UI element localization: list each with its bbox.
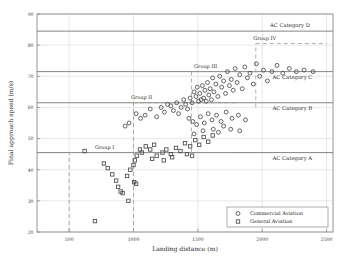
data-point-2: [155, 154, 158, 157]
data-point-1: [220, 85, 224, 89]
data-point-1: [206, 81, 210, 85]
group-label: Group II: [131, 94, 152, 101]
data-point-1: [198, 115, 202, 119]
data-point-2: [144, 145, 147, 148]
data-point-1: [222, 79, 226, 83]
data-point-2: [190, 154, 193, 157]
data-point-1: [123, 124, 127, 128]
y-axis-label: Final approach speed (m/s): [7, 81, 15, 165]
data-point-2: [106, 166, 109, 169]
data-point-2: [149, 148, 152, 151]
data-point-1: [219, 119, 223, 123]
data-point-1: [229, 77, 233, 81]
data-point-1: [210, 118, 214, 122]
data-point-1: [192, 132, 196, 136]
data-point-1: [254, 62, 258, 66]
data-point-2: [165, 148, 168, 151]
x-tick-label: 1000: [128, 237, 140, 242]
data-point-1: [209, 98, 213, 102]
data-point-1: [206, 112, 210, 116]
data-point-1: [240, 87, 244, 91]
data-point-1: [188, 96, 192, 100]
data-point-1: [143, 113, 147, 117]
data-point-1: [127, 121, 131, 125]
data-point-1: [194, 95, 198, 99]
data-point-1: [216, 95, 220, 99]
x-tick-label: 1500: [192, 237, 204, 242]
data-point-1: [203, 88, 207, 92]
data-point-2: [135, 154, 138, 157]
data-point-1: [192, 90, 196, 94]
data-point-1: [212, 90, 216, 94]
group-label: Group I: [95, 144, 114, 151]
data-point-2: [125, 174, 128, 177]
data-point-1: [198, 91, 202, 95]
y-tick-label: 20: [28, 230, 34, 235]
data-point-1: [275, 63, 279, 67]
data-point-2: [194, 138, 197, 141]
data-point-1: [243, 65, 247, 69]
category-label: AC Category A: [272, 155, 313, 162]
data-point-1: [195, 85, 199, 89]
y-tick-label: 60: [28, 105, 34, 110]
group-label: Group IV: [253, 35, 276, 42]
y-tick-label: 70: [28, 74, 34, 79]
y-tick-label: 80: [28, 43, 34, 48]
data-point-1: [231, 88, 235, 92]
category-label: AC Category C: [272, 74, 313, 81]
data-point-1: [211, 127, 215, 131]
data-point-1: [201, 129, 205, 133]
data-point-1: [217, 130, 221, 134]
data-point-2: [111, 173, 114, 176]
data-point-2: [152, 143, 155, 146]
data-point-2: [206, 140, 209, 143]
data-point-1: [162, 110, 166, 114]
data-point-1: [222, 124, 226, 128]
data-point-2: [114, 179, 117, 182]
data-point-1: [134, 112, 138, 116]
x-axis-label: Landing distance (m): [152, 245, 218, 253]
data-point-1: [238, 129, 242, 133]
y-tick-label: 50: [28, 136, 34, 141]
y-tick-label: 30: [28, 199, 34, 204]
data-point-2: [93, 219, 96, 222]
data-point-1: [224, 110, 228, 114]
data-point-2: [116, 185, 119, 188]
data-point-2: [183, 142, 186, 145]
data-point-1: [251, 82, 255, 86]
y-tick-label: 90: [28, 12, 34, 17]
data-point-1: [208, 87, 212, 91]
data-point-1: [233, 67, 237, 71]
data-point-1: [229, 127, 233, 131]
x-tick-label: 500: [65, 237, 74, 242]
data-point-1: [200, 84, 204, 88]
data-point-1: [235, 81, 239, 85]
plot-frame: [37, 14, 333, 232]
data-point-1: [171, 109, 175, 113]
data-point-1: [177, 112, 181, 116]
data-point-2: [150, 157, 153, 160]
data-point-1: [187, 116, 191, 120]
category-label: AC Category D: [269, 22, 310, 29]
data-point-1: [215, 113, 219, 117]
data-point-1: [224, 91, 228, 95]
data-point-1: [207, 93, 211, 97]
y-tick-label: 40: [28, 168, 34, 173]
chart-canvas: 20304050607080905001000150020002500AC Ca…: [0, 0, 342, 272]
data-point-1: [182, 98, 186, 102]
data-point-1: [214, 82, 218, 86]
x-tick-label: 2000: [256, 237, 268, 242]
x-tick-label: 2500: [321, 237, 333, 242]
data-point-2: [174, 146, 177, 149]
data-point-1: [265, 79, 269, 83]
data-point-1: [244, 118, 248, 122]
data-point-2: [162, 159, 165, 162]
data-point-1: [230, 116, 234, 120]
data-point-2: [202, 135, 205, 138]
category-label: AC Category B: [272, 105, 313, 112]
data-point-2: [102, 162, 105, 165]
data-point-1: [227, 84, 231, 88]
data-point-1: [236, 113, 240, 117]
data-point-1: [202, 121, 206, 125]
group-label: Group III: [194, 63, 217, 70]
